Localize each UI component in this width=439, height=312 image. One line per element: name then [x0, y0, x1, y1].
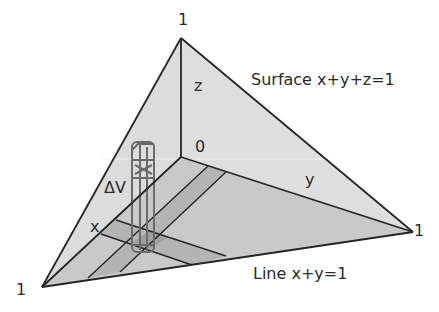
label-vertex-y: 1 — [414, 221, 424, 240]
label-vertex-x: 1 — [16, 280, 26, 299]
label-axis-z: z — [194, 76, 202, 95]
label-origin: 0 — [195, 137, 205, 156]
label-surface: Surface x+y+z=1 — [251, 70, 395, 89]
label-volume-element: ΔV — [104, 178, 126, 197]
label-axis-x: x — [90, 217, 99, 236]
tetrahedron-diagram: 1 1 1 0 z x y ΔV Surface x+y+z=1 Line x+… — [0, 0, 439, 312]
label-apex-z: 1 — [178, 10, 188, 29]
label-line: Line x+y=1 — [253, 264, 347, 283]
label-axis-y: y — [305, 170, 314, 189]
